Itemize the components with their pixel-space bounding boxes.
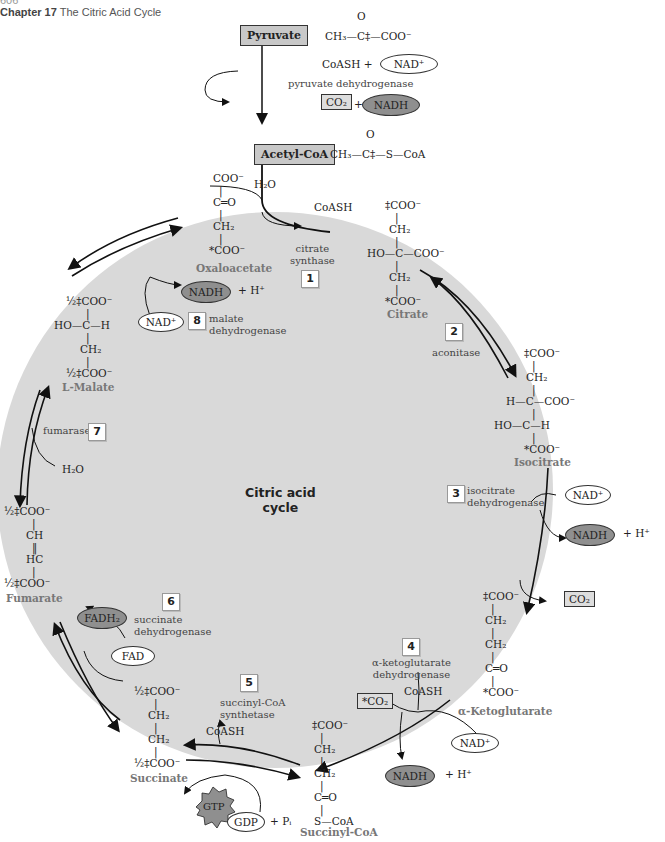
step2-enzyme: aconitase (432, 347, 480, 359)
pi-label: + Pᵢ (270, 815, 291, 827)
oxaloacetate-name: Oxaloacetate (196, 262, 272, 274)
succinyl-coa-structure: ‡COO⁻ | CH₂ | CH₂ | C═O | S—CoA (312, 719, 354, 827)
acetyl-coa-formula: CH₃—C‡—S—CoA (330, 148, 425, 160)
step-6-badge: 6 (162, 593, 180, 611)
nad-plus-step8: NAD⁺ (138, 312, 184, 332)
step3-enzyme: isocitrate dehydrogenase (467, 485, 544, 509)
nadh-entry: NADH (362, 94, 420, 116)
co2-entry: CO₂ (321, 94, 352, 110)
step-5-badge: 5 (240, 674, 258, 692)
gtp-label: GTP (203, 801, 224, 813)
isocitrate-name: Isocitrate (514, 456, 571, 468)
nadh-step8: NADH (181, 281, 231, 303)
pyruvate-dehydrogenase-label: pyruvate dehydrogenase (288, 78, 413, 90)
pyruvate-box: Pyruvate (240, 25, 308, 46)
step7-enzyme: fumarase (43, 425, 90, 437)
oxaloacetate-structure: COO⁻ | C═O | CH₂ | *COO⁻ (205, 172, 245, 256)
acetyl-coa-carbonyl-o: O (366, 128, 375, 140)
fumarate-name: Fumarate (6, 592, 63, 604)
pyruvate-formula: CH₃—C‡—COO⁻ (325, 30, 411, 42)
step-3-badge: 3 (447, 485, 465, 503)
h-plus-step4: + H⁺ (445, 768, 472, 780)
succinate-structure: ½‡COO⁻ | CH₂ | CH₂ | ½‡COO⁻ (134, 685, 180, 769)
nadh-step3: NADH (565, 524, 615, 546)
nad-plus-step4: NAD⁺ (451, 733, 499, 753)
nad-plus-entry: NAD⁺ (380, 54, 438, 74)
step4-enzyme: α-ketoglutarate dehydrogenase (372, 657, 451, 681)
step-8-badge: 8 (188, 312, 206, 330)
alpha-ketoglutarate-name: α-Ketoglutarate (458, 705, 552, 717)
h2o-entry: H₂O (254, 178, 276, 190)
step1-enzyme: citrate synthase (290, 243, 335, 267)
citrate-name: Citrate (387, 308, 428, 320)
alpha-ketoglutarate-structure: ‡COO⁻ | CH₂ | CH₂ | C═O | *COO⁻ (483, 590, 519, 698)
co2-step3: CO₂ (564, 591, 595, 607)
pyruvate-cofactors-in: CoASH + (322, 58, 372, 70)
coash-step5: CoASH (206, 725, 244, 737)
step-4-badge: 4 (402, 638, 420, 656)
fad-oval: FAD (111, 646, 155, 666)
succinate-name: Succinate (130, 772, 188, 784)
malate-name: L-Malate (62, 381, 115, 393)
step-7-badge: 7 (88, 423, 106, 441)
step-1-badge: 1 (301, 270, 319, 288)
citrate-structure: ‡COO⁻ | CH₂ | HO—C—COO⁻ | CH₂ | *COO⁻ (345, 199, 445, 307)
malate-structure: ½‡COO⁻ | HO—C—H | CH₂ | ½‡COO⁻ (50, 295, 112, 379)
step5-enzyme: succinyl-CoA synthetase (220, 697, 286, 721)
fumarate-structure: ½‡COO⁻ | CH ‖ HC | ½‡COO⁻ (4, 505, 50, 589)
coash-step4: CoASH (404, 685, 442, 697)
isocitrate-structure: ‡COO⁻ | CH₂ | H—C—COO⁻ | HO—C—H | *COO⁻ (494, 347, 575, 455)
h2o-step7: H₂O (62, 463, 84, 475)
pyruvate-carbonyl-o: O (357, 10, 366, 22)
nad-plus-step3: NAD⁺ (565, 485, 611, 505)
nadh-step4: NADH (385, 765, 435, 787)
h-plus-step8: + H⁺ (238, 284, 265, 296)
gdp-oval: GDP (227, 812, 265, 832)
acetyl-coa-box: Acetyl-CoA (254, 144, 335, 165)
step8-enzyme: malate dehydrogenase (209, 313, 286, 337)
co2-star-step4: *CO₂ (357, 693, 393, 709)
step6-enzyme: succinate dehydrogenase (134, 614, 211, 638)
step-2-badge: 2 (445, 323, 463, 341)
fadh2-oval: FADH₂ (77, 607, 127, 629)
h-plus-step3: + H⁺ (623, 527, 650, 539)
cycle-title: Citric acid cycle (245, 485, 316, 515)
succinyl-coa-name: Succinyl-CoA (300, 826, 378, 838)
